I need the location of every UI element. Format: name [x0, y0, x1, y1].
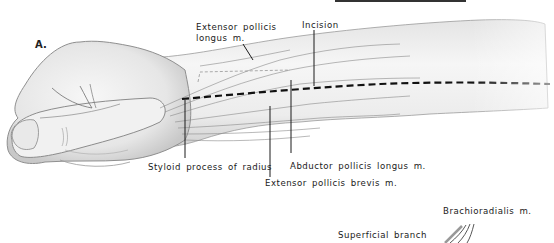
- label-superficial-branch: Superficial branch: [338, 230, 427, 241]
- label-incision: Incision: [302, 20, 339, 31]
- label-abductor-pollicis-longus: Abductor pollicis longus m.: [290, 161, 426, 172]
- label-brachioradialis: Brachioradialis m.: [443, 206, 532, 217]
- panel-letter: A.: [35, 39, 47, 50]
- label-styloid-process: Styloid process of radius: [148, 162, 272, 173]
- label-extensor-pollicis-longus-line2: longus m.: [196, 33, 277, 44]
- anatomical-figure: A. Extensor pollicis longus m. Incision …: [0, 0, 554, 243]
- label-extensor-pollicis-longus: Extensor pollicis longus m.: [196, 22, 277, 44]
- label-extensor-pollicis-brevis: Extensor pollicis brevis m.: [265, 178, 397, 189]
- label-extensor-pollicis-longus-line1: Extensor pollicis: [196, 22, 277, 33]
